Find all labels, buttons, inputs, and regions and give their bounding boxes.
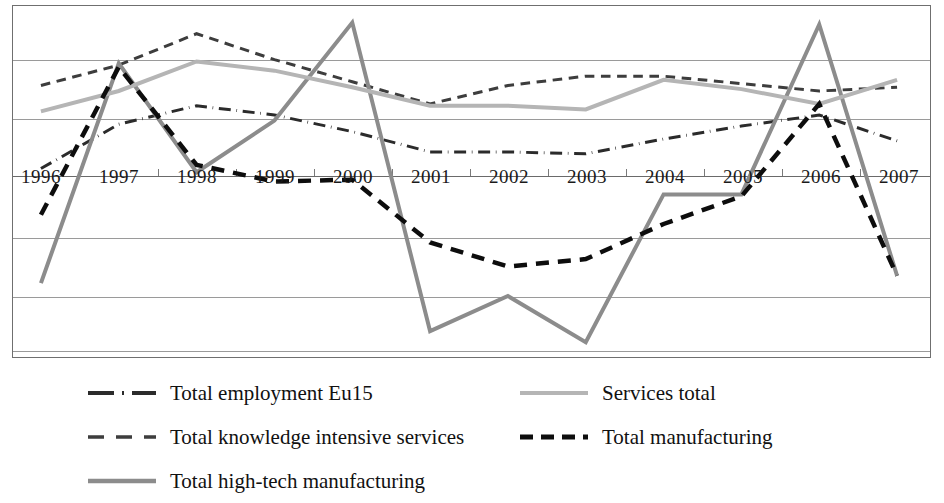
chart-legend: Total employment Eu15Total knowledge int… bbox=[0, 372, 944, 503]
x-tick-label-2005: 2005 bbox=[708, 166, 778, 188]
legend-label-2: Total high-tech manufacturing bbox=[170, 469, 425, 494]
x-tick-label-2000: 2000 bbox=[318, 166, 388, 188]
x-tick-label-2003: 2003 bbox=[552, 166, 622, 188]
x-tick-label-2004: 2004 bbox=[630, 166, 700, 188]
legend-entry-3[interactable]: Services total bbox=[520, 380, 716, 406]
legend-swatch-icon-3 bbox=[520, 382, 588, 404]
x-tick-label-2002: 2002 bbox=[474, 166, 544, 188]
legend-entry-1[interactable]: Total knowledge intensive services bbox=[88, 424, 464, 450]
legend-entry-2[interactable]: Total high-tech manufacturing bbox=[88, 468, 425, 494]
x-tick-label-1999: 1999 bbox=[240, 166, 310, 188]
x-tick-label-2007: 2007 bbox=[864, 166, 934, 188]
legend-swatch-icon-1 bbox=[88, 426, 156, 448]
plot-area: 1996199719981999200020012002200320042005… bbox=[12, 5, 931, 358]
legend-label-0: Total employment Eu15 bbox=[170, 381, 373, 406]
x-tick-label-1998: 1998 bbox=[162, 166, 232, 188]
legend-label-4: Total manufacturing bbox=[602, 425, 773, 450]
legend-label-3: Services total bbox=[602, 381, 716, 406]
legend-entry-4[interactable]: Total manufacturing bbox=[520, 424, 773, 450]
legend-label-1: Total knowledge intensive services bbox=[170, 425, 464, 450]
x-tick-label-2006: 2006 bbox=[786, 166, 856, 188]
legend-entry-0[interactable]: Total employment Eu15 bbox=[88, 380, 373, 406]
chart-figure: 1996199719981999200020012002200320042005… bbox=[0, 0, 944, 503]
x-tick-label-1996: 1996 bbox=[6, 166, 76, 188]
legend-swatch-icon-2 bbox=[88, 470, 156, 492]
x-tick-label-2001: 2001 bbox=[396, 166, 466, 188]
legend-swatch-icon-4 bbox=[520, 426, 588, 448]
legend-swatch-icon-0 bbox=[88, 382, 156, 404]
x-tick-label-1997: 1997 bbox=[84, 166, 154, 188]
